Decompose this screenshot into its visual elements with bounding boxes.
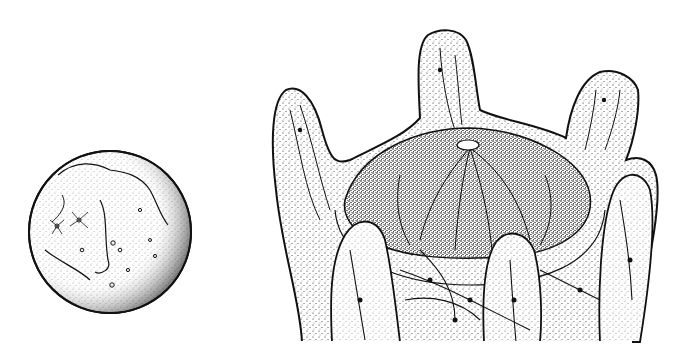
moon-drawing bbox=[29, 151, 191, 313]
illustration-svg bbox=[0, 0, 689, 364]
hand-structure-drawing bbox=[273, 30, 658, 342]
illustration-canvas bbox=[0, 0, 689, 364]
